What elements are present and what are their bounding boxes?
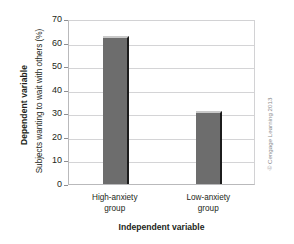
- category-label-line1: Low-anxiety: [163, 192, 253, 203]
- y-axis-tick-label: 20: [22, 133, 62, 142]
- y-axis-tick-label: 10: [22, 156, 62, 165]
- x-axis-label: Independent variable: [68, 222, 255, 232]
- gridline: [69, 68, 254, 69]
- y-axis-tick-label: 30: [22, 109, 62, 118]
- category-label-line2: group: [70, 203, 160, 214]
- category-label-line2: group: [163, 203, 253, 214]
- y-axis-tick-label: 50: [22, 62, 62, 71]
- gridline: [69, 139, 254, 140]
- y-axis-tick: [64, 185, 68, 186]
- copyright-text: © Cengage Learning 2013: [266, 98, 273, 171]
- x-axis-category-label: High-anxietygroup: [70, 192, 160, 214]
- gridline: [69, 115, 254, 116]
- y-axis-tick-label: 40: [22, 86, 62, 95]
- bar: [103, 36, 129, 185]
- y-axis-tick-label: 60: [22, 39, 62, 48]
- bar-chart-figure: Dependent variable Subjects wanting to w…: [0, 0, 294, 244]
- y-axis-tick-label: 70: [22, 15, 62, 24]
- gridline: [69, 92, 254, 93]
- y-axis-tick-label: 0: [22, 180, 62, 189]
- category-label-line1: High-anxiety: [70, 192, 160, 203]
- copyright-notice: © Cengage Learning 2013: [262, 88, 276, 180]
- bar: [196, 111, 222, 184]
- gridline: [69, 162, 254, 163]
- plot-area: [68, 20, 255, 185]
- x-axis-category-label: Low-anxietygroup: [163, 192, 253, 214]
- gridline: [69, 45, 254, 46]
- y-axis-label-text: Subjects wanting to wait with others (%): [35, 28, 44, 173]
